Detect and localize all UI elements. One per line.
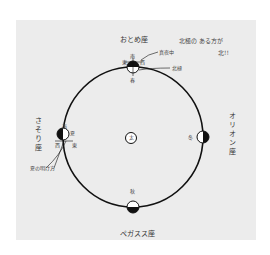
summer-west-label: 西: [55, 143, 60, 148]
summer-south-label: 南: [62, 124, 67, 129]
earth-winter-icon: [197, 131, 209, 143]
dir-east-label: 東: [122, 60, 127, 65]
sun-label: 太: [129, 135, 134, 140]
earth-autumn-icon: [127, 201, 139, 213]
summer-east-label: 東: [72, 143, 77, 148]
earth-summer-icon: [46, 128, 73, 168]
season-summer-label: 夏: [70, 131, 75, 136]
dir-west-label: 西: [140, 60, 145, 65]
constellation-pegasus: ペガスス座: [120, 231, 155, 238]
constellation-scorpius: さそり座: [34, 117, 41, 153]
constellation-virgo: おとめ座: [120, 37, 148, 44]
dir-south-label: 南: [130, 54, 135, 59]
season-spring-label: 春: [130, 78, 135, 83]
constellation-orion: オリオン座: [228, 112, 235, 157]
note-midnight: 真夜中: [159, 50, 174, 55]
season-autumn-label: 秋: [130, 189, 135, 194]
note-summer-dawn: 夏の明け方: [30, 166, 55, 171]
note-north-direction: 北極の ある方が: [179, 38, 223, 44]
note-north-exclaim: 北!!: [218, 50, 229, 56]
note-north-pole: 北極: [172, 66, 182, 71]
season-winter-label: 冬: [188, 135, 193, 140]
